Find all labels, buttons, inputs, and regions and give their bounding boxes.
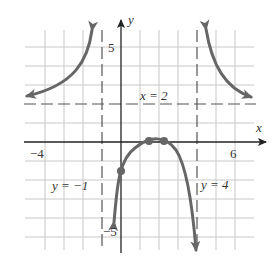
point-x-intercept-1 [145,137,153,145]
point-y-intercept [117,167,125,175]
y-axis-label: y [126,12,134,27]
grid [25,30,254,250]
point-x-intercept-2 [160,137,168,145]
y-tick-neg5: −5 [103,224,117,239]
x-axis-label: x [255,120,262,135]
horizontal-asymptote-label: x = 2 [139,88,168,103]
rational-function-graph: y x 5 −5 −4 6 x = 2 y = −1 y = 4 [0,0,277,257]
x-tick-neg4: −4 [30,146,44,161]
x-tick-6: 6 [230,146,237,161]
middle-branch-curve [114,139,196,250]
right-branch-curve [206,29,251,97]
y-tick-5: 5 [108,40,115,55]
right-asymptote-label: y = 4 [199,177,229,192]
left-asymptote-label: y = −1 [50,178,88,193]
left-branch-curve [27,30,92,96]
